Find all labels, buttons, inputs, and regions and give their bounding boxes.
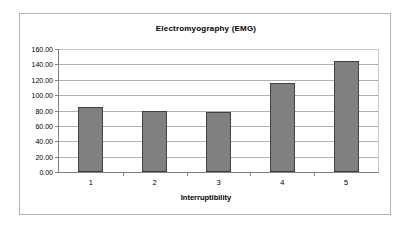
x-axis-label: 1	[89, 178, 93, 187]
y-axis-label: 100.00	[32, 92, 53, 99]
y-axis-label: 0.00	[39, 169, 53, 176]
x-axis-label: 5	[344, 178, 348, 187]
y-axis-tick	[55, 64, 59, 65]
y-axis-tick	[55, 95, 59, 96]
bar	[270, 83, 295, 172]
chart-title: Electromyography (EMG)	[20, 24, 392, 33]
y-axis-label: 60.00	[35, 122, 53, 129]
y-axis-label: 140.00	[32, 61, 53, 68]
plot-area: 160.00140.00120.00100.0080.0060.0040.002…	[58, 49, 379, 173]
bar	[206, 112, 231, 172]
y-axis-tick	[55, 80, 59, 81]
y-axis-tick	[55, 172, 59, 173]
y-axis-tick	[55, 49, 59, 50]
bar	[334, 61, 359, 172]
y-axis-tick	[55, 141, 59, 142]
x-axis-tick	[187, 172, 188, 176]
gridline	[59, 64, 378, 65]
y-axis-label: 20.00	[35, 153, 53, 160]
y-axis-tick	[55, 111, 59, 112]
x-axis-tick	[123, 172, 124, 176]
x-axis-label: 3	[216, 178, 220, 187]
y-axis-label: 80.00	[35, 107, 53, 114]
gridline	[59, 49, 378, 50]
x-axis-label: 4	[280, 178, 284, 187]
bar	[142, 111, 167, 173]
y-axis-label: 40.00	[35, 138, 53, 145]
y-axis-label: 120.00	[32, 76, 53, 83]
gridline	[59, 80, 378, 81]
x-axis-tick	[314, 172, 315, 176]
bar	[78, 107, 103, 172]
chart-container: Electromyography (EMG) 160.00140.00120.0…	[19, 13, 391, 215]
y-axis-label: 160.00	[32, 46, 53, 53]
x-axis-title: Interruptibility	[20, 193, 392, 202]
y-axis-tick	[55, 126, 59, 127]
gridline	[59, 95, 378, 96]
y-axis-tick	[55, 157, 59, 158]
x-axis-tick	[250, 172, 251, 176]
x-axis-label: 2	[153, 178, 157, 187]
